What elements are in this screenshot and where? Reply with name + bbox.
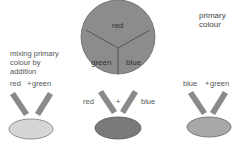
mix-result-red-green <box>9 119 53 139</box>
caption-line-1: mixing primary <box>10 49 59 58</box>
mix-2-operator: + <box>116 97 121 106</box>
additive-colour-diagram: red green blue primary colour mixing pri… <box>0 0 239 151</box>
wheel-label-blue: blue <box>126 58 142 67</box>
wheel-label-green: green <box>91 58 111 67</box>
mix-1-right-label: green <box>32 79 51 88</box>
mix-red-blue: red + blue <box>83 90 155 139</box>
beam-green <box>210 91 228 115</box>
mix-2-right-label: blue <box>141 97 155 106</box>
title-line-1: primary <box>199 11 226 20</box>
mix-3-left-label: blue <box>183 79 197 88</box>
caption-line-3: addition <box>10 67 36 76</box>
mix-result-blue-green <box>187 117 231 137</box>
beam-blue <box>120 90 138 114</box>
beam-green <box>35 92 53 116</box>
colour-wheel: red green blue <box>81 0 155 74</box>
mix-result-red-blue <box>95 117 141 139</box>
mix-red-green: red + green <box>9 79 53 139</box>
caption-line-2: colour by <box>10 58 41 67</box>
mix-3-right-label: green <box>210 79 229 88</box>
mix-blue-green: blue + green <box>183 79 231 137</box>
mix-1-left-label: red <box>10 79 21 88</box>
mix-2-left-label: red <box>83 97 94 106</box>
beam-blue <box>188 91 207 115</box>
beam-red <box>98 90 117 114</box>
wheel-label-red: red <box>112 21 124 30</box>
beam-red <box>10 92 29 116</box>
title-line-2: colour <box>199 20 221 29</box>
